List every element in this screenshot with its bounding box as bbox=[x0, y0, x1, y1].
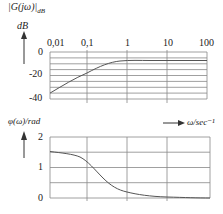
phase-curve bbox=[50, 152, 210, 199]
magnitude-chart bbox=[21, 31, 207, 103]
phase-up-arrow-icon bbox=[21, 131, 27, 158]
magnitude-grid bbox=[50, 50, 207, 103]
phase-grid bbox=[50, 137, 210, 201]
magnitude-curve bbox=[50, 60, 207, 93]
x-axis-right-arrow-icon bbox=[163, 120, 185, 126]
phase-chart bbox=[21, 120, 210, 201]
magnitude-up-arrow-icon bbox=[21, 31, 27, 64]
bode-plot bbox=[0, 0, 223, 214]
